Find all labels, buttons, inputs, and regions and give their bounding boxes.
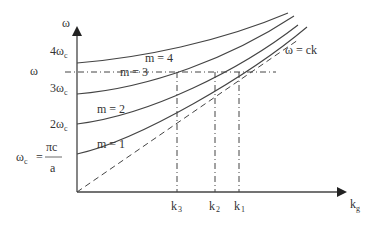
omega-c-equals: = (36, 150, 43, 164)
k1-label: k1 (234, 199, 245, 214)
label-mode-3: m = 3 (120, 65, 148, 79)
curve-mode-1 (77, 27, 307, 154)
dispersion-diagram: ω kg 4ωc 3ωc 2ωc ω ωc = πc a m = 4 m = 3… (0, 0, 377, 225)
label-mode-1: m = 1 (97, 137, 125, 151)
omega-c-lhs: ωc (16, 150, 28, 166)
y-axis-label: ω (62, 16, 70, 30)
omega-c-denominator: a (50, 161, 56, 175)
k3-label: k3 (171, 199, 182, 214)
k2-label: k2 (209, 199, 220, 214)
light-line (77, 40, 298, 192)
label-mode-4: m = 4 (145, 51, 173, 65)
omega-c-numerator: πc (46, 140, 57, 154)
y-tick-3wc: 3ωc (50, 81, 68, 97)
x-axis-label: kg (350, 197, 360, 213)
label-mode-2: m = 2 (97, 102, 125, 116)
curve-mode-3 (77, 16, 294, 94)
omega-level-label: ω (30, 64, 38, 78)
y-tick-2wc: 2ωc (50, 117, 68, 133)
light-line-label: ω = ck (285, 43, 317, 57)
y-tick-4wc: 4ωc (50, 44, 68, 60)
